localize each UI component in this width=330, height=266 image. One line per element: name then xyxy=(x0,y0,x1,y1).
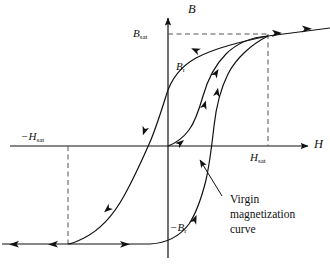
axis-label-b: B xyxy=(188,3,196,16)
arrow-descending-steep xyxy=(140,126,149,137)
arrow-upper-sat-inner xyxy=(272,30,282,37)
hysteresis-loop-figure: B H Bsat Br −Br Hsat −Hsat Virgin magnet… xyxy=(0,0,330,266)
tick-label-neg-h-sat: −Hsat xyxy=(21,131,44,144)
annotation-line-3: curve xyxy=(230,222,295,237)
arrow-descending-lower xyxy=(102,204,113,215)
tick-label-neg-b-r: −Br xyxy=(170,222,187,235)
tick-label-h-sat: Hsat xyxy=(250,152,266,165)
axis-label-h: H xyxy=(314,138,323,151)
annotation-line-1: Virgin xyxy=(230,192,295,207)
tick-label-b-sat: Bsat xyxy=(133,28,148,41)
arrow-descending-upper xyxy=(190,45,201,55)
annotation-line-2: magnetization xyxy=(230,207,295,222)
tick-label-b-r: Br xyxy=(176,61,185,74)
virgin-curve-annotation: Virgin magnetization curve xyxy=(230,192,295,238)
